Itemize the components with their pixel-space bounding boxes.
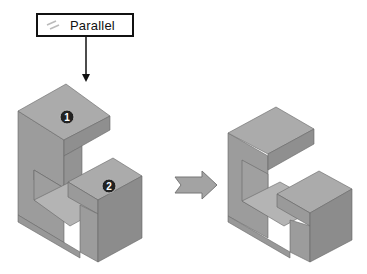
leader-arrow (82, 37, 90, 82)
part-before (18, 84, 142, 262)
transition-arrow-icon (175, 171, 217, 199)
marker-1: 1 (60, 110, 74, 124)
svg-text:1: 1 (64, 112, 70, 123)
marker-2: 2 (102, 179, 116, 193)
svg-text:2: 2 (106, 181, 112, 192)
part-after (228, 107, 352, 262)
